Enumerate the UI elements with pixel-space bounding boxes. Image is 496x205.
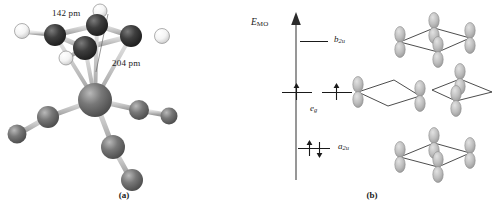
figure-root: 142 pm 204 pm (a) EMO b2u eg [0, 0, 496, 205]
panel-b-mo-diagram: EMO b2u eg a2u [248, 0, 496, 205]
caption-panel-a: (a) [0, 190, 248, 200]
ball-and-stick-model [0, 0, 248, 182]
orbital-picture-a2u [395, 128, 475, 183]
orbital-pictures [248, 0, 496, 182]
orbital-picture-eg-right [432, 64, 492, 117]
metal-ring-distance-label: 204 pm [112, 58, 140, 68]
panel-a-molecular-model: 142 pm 204 pm (a) [0, 0, 248, 205]
caption-panel-b: (b) [248, 190, 496, 200]
central-metal-atom [78, 83, 112, 117]
ring-bond-length-label: 142 pm [52, 8, 80, 18]
carbonyl-oxygens [8, 108, 178, 192]
orbital-picture-eg-left [353, 77, 425, 112]
orbital-picture-b2u [395, 13, 475, 68]
cyclobutadiene-ring-carbons [44, 14, 142, 60]
